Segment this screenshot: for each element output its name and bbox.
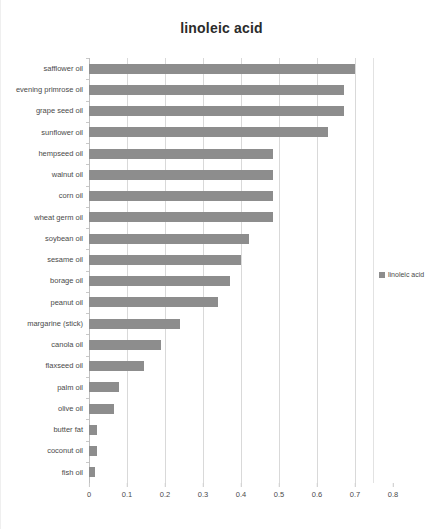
x-tick-mark	[203, 483, 204, 487]
category-label: olive oil	[58, 405, 83, 413]
bar-sesame-oil[interactable]	[89, 255, 241, 265]
category-label: corn oil	[59, 192, 83, 200]
bar-walnut-oil[interactable]	[89, 170, 273, 180]
category-label: flaxseed oil	[45, 362, 83, 370]
x-tick-mark	[393, 483, 394, 487]
y-tick-mark	[86, 207, 89, 208]
x-tick-label: 0.4	[236, 490, 246, 499]
x-tick-mark	[355, 483, 356, 487]
y-tick-mark	[86, 377, 89, 378]
table-row: coconut oil	[89, 441, 443, 462]
x-tick-label: 0.1	[122, 490, 132, 499]
y-tick-mark	[86, 462, 89, 463]
table-row: evening primrose oil	[89, 79, 443, 100]
bar-peanut-oil[interactable]	[89, 297, 218, 307]
category-label: canola oil	[51, 341, 83, 349]
bar-palm-oil[interactable]	[89, 382, 119, 392]
category-label: sunflower oil	[41, 129, 83, 137]
category-label: evening primrose oil	[16, 86, 83, 94]
y-tick-mark	[86, 271, 89, 272]
category-label: soybean oil	[45, 235, 83, 243]
y-tick-mark	[86, 292, 89, 293]
table-row: soybean oil	[89, 228, 443, 249]
x-tick-mark	[165, 483, 166, 487]
image-left-edge	[0, 0, 1, 529]
category-label: grape seed oil	[36, 107, 83, 115]
x-tick-0.5: 0.5	[274, 483, 284, 499]
bar-butter-fat[interactable]	[89, 425, 97, 435]
table-row: safflower oil	[89, 58, 443, 79]
bar-olive-oil[interactable]	[89, 404, 114, 414]
x-tick-label: 0.3	[198, 490, 208, 499]
table-row: peanut oil	[89, 292, 443, 313]
x-tick-0.4: 0.4	[236, 483, 246, 499]
bar-canola-oil[interactable]	[89, 340, 161, 350]
bar-margarine-stick-[interactable]	[89, 319, 180, 329]
bar-soybean-oil[interactable]	[89, 234, 249, 244]
bar-safflower-oil[interactable]	[89, 64, 355, 74]
bar-borage-oil[interactable]	[89, 276, 230, 286]
y-tick-mark	[86, 58, 89, 59]
table-row: sunflower oil	[89, 122, 443, 143]
y-tick-mark	[86, 419, 89, 420]
bar-wheat-germ-oil[interactable]	[89, 212, 273, 222]
x-tick-0: 0	[87, 483, 91, 499]
x-tick-mark	[279, 483, 280, 487]
x-tick-0.3: 0.3	[198, 483, 208, 499]
legend-label: linoleic acid	[388, 271, 424, 278]
table-row: fish oil	[89, 462, 443, 483]
category-label: hempseed oil	[38, 150, 83, 158]
table-row: canola oil	[89, 334, 443, 355]
y-tick-mark	[86, 441, 89, 442]
y-tick-mark	[86, 79, 89, 80]
table-row: butter fat	[89, 419, 443, 440]
y-tick-mark	[86, 164, 89, 165]
x-tick-0.1: 0.1	[122, 483, 132, 499]
table-row: sesame oil	[89, 249, 443, 270]
x-tick-mark	[241, 483, 242, 487]
y-tick-mark	[86, 228, 89, 229]
table-row: olive oil	[89, 398, 443, 419]
x-tick-0.6: 0.6	[312, 483, 322, 499]
bar-evening-primrose-oil[interactable]	[89, 85, 344, 95]
y-tick-mark	[86, 122, 89, 123]
category-label: fish oil	[62, 469, 83, 477]
category-label: peanut oil	[50, 299, 83, 307]
table-row: palm oil	[89, 377, 443, 398]
bar-grape-seed-oil[interactable]	[89, 106, 344, 116]
bar-sunflower-oil[interactable]	[89, 127, 328, 137]
x-tick-label: 0.8	[388, 490, 398, 499]
x-tick-label: 0.2	[160, 490, 170, 499]
table-row: walnut oil	[89, 164, 443, 185]
x-tick-mark	[127, 483, 128, 487]
category-label: walnut oil	[52, 171, 83, 179]
category-label: margarine (stick)	[27, 320, 83, 328]
category-label: coconut oil	[47, 447, 83, 455]
bar-flaxseed-oil[interactable]	[89, 361, 144, 371]
x-tick-0.7: 0.7	[350, 483, 360, 499]
x-tick-label: 0	[87, 490, 91, 499]
legend-swatch-icon	[379, 272, 385, 278]
chart-title: linoleic acid	[0, 20, 443, 36]
bar-coconut-oil[interactable]	[89, 446, 97, 456]
y-tick-mark	[86, 101, 89, 102]
x-tick-0.8: 0.8	[388, 483, 398, 499]
bar-fish-oil[interactable]	[89, 467, 95, 477]
y-tick-mark	[86, 398, 89, 399]
table-row: corn oil	[89, 186, 443, 207]
x-tick-label: 0.5	[274, 490, 284, 499]
table-row: margarine (stick)	[89, 313, 443, 334]
legend: linoleic acid	[379, 271, 424, 278]
category-label: butter fat	[53, 426, 83, 434]
category-label: wheat germ oil	[34, 214, 83, 222]
category-label: palm oil	[57, 384, 83, 392]
bar-corn-oil[interactable]	[89, 191, 273, 201]
bar-hempseed-oil[interactable]	[89, 149, 273, 159]
y-tick-mark	[86, 143, 89, 144]
table-row: wheat germ oil	[89, 207, 443, 228]
table-row: flaxseed oil	[89, 356, 443, 377]
x-axis: 00.10.20.30.40.50.60.70.8	[89, 483, 443, 507]
table-row: hempseed oil	[89, 143, 443, 164]
y-tick-mark	[86, 249, 89, 250]
y-tick-mark	[86, 334, 89, 335]
